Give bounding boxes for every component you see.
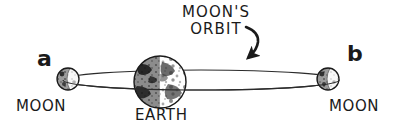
moon-right-label: MOON bbox=[329, 99, 379, 114]
moon-orbit-diagram: MOON'S ORBIT a b MOON EARTH MOON bbox=[0, 0, 401, 133]
marker-label-b: b bbox=[347, 43, 363, 65]
orbit-label-line2: ORBIT bbox=[176, 22, 256, 37]
moon-b-body bbox=[317, 68, 339, 90]
moon-left-label: MOON bbox=[16, 99, 66, 114]
earth-label: EARTH bbox=[135, 108, 188, 123]
moon-orbit-ellipse-front bbox=[63, 80, 339, 90]
marker-label-a: a bbox=[37, 48, 52, 70]
orbit-label-line1: MOON'S bbox=[182, 3, 250, 21]
moon-a-body bbox=[57, 68, 79, 90]
earth-body bbox=[134, 56, 186, 108]
orbit-label: MOON'S ORBIT bbox=[176, 5, 256, 37]
